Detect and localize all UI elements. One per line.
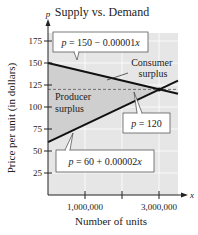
svg-text:75: 75 xyxy=(33,124,43,134)
x-axis-arrow-icon xyxy=(181,193,188,198)
x-tick-label-3m: 3,000,000 xyxy=(141,202,178,212)
svg-text:p = 60 + 0.00002x: p = 60 + 0.00002x xyxy=(67,156,142,167)
x-axis-title: Number of units xyxy=(75,215,147,227)
svg-text:175: 175 xyxy=(29,36,43,46)
svg-text:50: 50 xyxy=(33,146,43,156)
svg-text:100: 100 xyxy=(29,102,43,112)
y-axis-arrow-icon xyxy=(46,19,51,26)
svg-text:150: 150 xyxy=(29,58,43,68)
svg-text:25: 25 xyxy=(33,168,43,178)
svg-text:p = 120: p = 120 xyxy=(130,118,162,129)
chart-title: Supply vs. Demand xyxy=(55,5,149,19)
x-axis-symbol: x xyxy=(189,190,194,200)
supply-demand-chart: Supply vs. Demand p x xyxy=(0,0,198,235)
y-axis-title: Price per unit (in dollars) xyxy=(5,62,18,173)
equilibrium-point xyxy=(157,87,161,91)
svg-text:125: 125 xyxy=(29,80,43,90)
svg-text:p = 150 − 0.00001x: p = 150 − 0.00001x xyxy=(60,37,140,48)
x-tick-label-1m: 1,000,000 xyxy=(67,202,104,212)
y-axis-symbol: p xyxy=(45,9,51,19)
y-tick-labels: 175 150 125 100 75 50 25 xyxy=(29,36,43,178)
